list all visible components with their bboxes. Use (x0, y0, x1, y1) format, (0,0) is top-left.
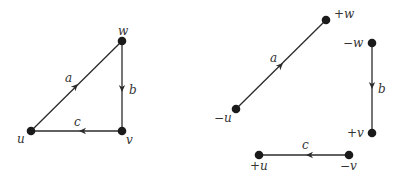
node-plus-w (322, 16, 331, 25)
label-edge-c-right: c (302, 138, 309, 152)
label-plus-w: +w (334, 7, 355, 21)
node-minus-v (345, 151, 354, 160)
label-w: w (118, 24, 129, 38)
node-plus-v (368, 129, 377, 138)
label-plus-u: +u (250, 159, 268, 173)
label-edge-a-left: a (65, 71, 72, 85)
diagram-svg: w u v a b c +w −u −w +v +u −v (0, 0, 402, 178)
label-edge-a-right: a (270, 51, 277, 65)
label-edge-b-left: b (129, 83, 137, 97)
left-graph: w u v a b c (17, 24, 137, 147)
node-minus-u (232, 105, 241, 114)
label-plus-v: +v (347, 126, 364, 140)
right-graph: +w −u −w +v +u −v a b c (214, 7, 386, 173)
label-minus-v: −v (340, 159, 357, 173)
label-minus-u: −u (214, 111, 232, 125)
label-edge-b-right: b (378, 82, 386, 96)
label-minus-w: −w (343, 36, 364, 50)
diagram-canvas: w u v a b c +w −u −w +v +u −v (0, 0, 402, 178)
node-v (118, 127, 127, 136)
node-minus-w (368, 39, 377, 48)
label-v: v (126, 133, 133, 147)
node-plus-u (255, 151, 264, 160)
node-u (27, 127, 36, 136)
label-u: u (17, 132, 25, 146)
label-edge-c-left: c (74, 115, 81, 129)
